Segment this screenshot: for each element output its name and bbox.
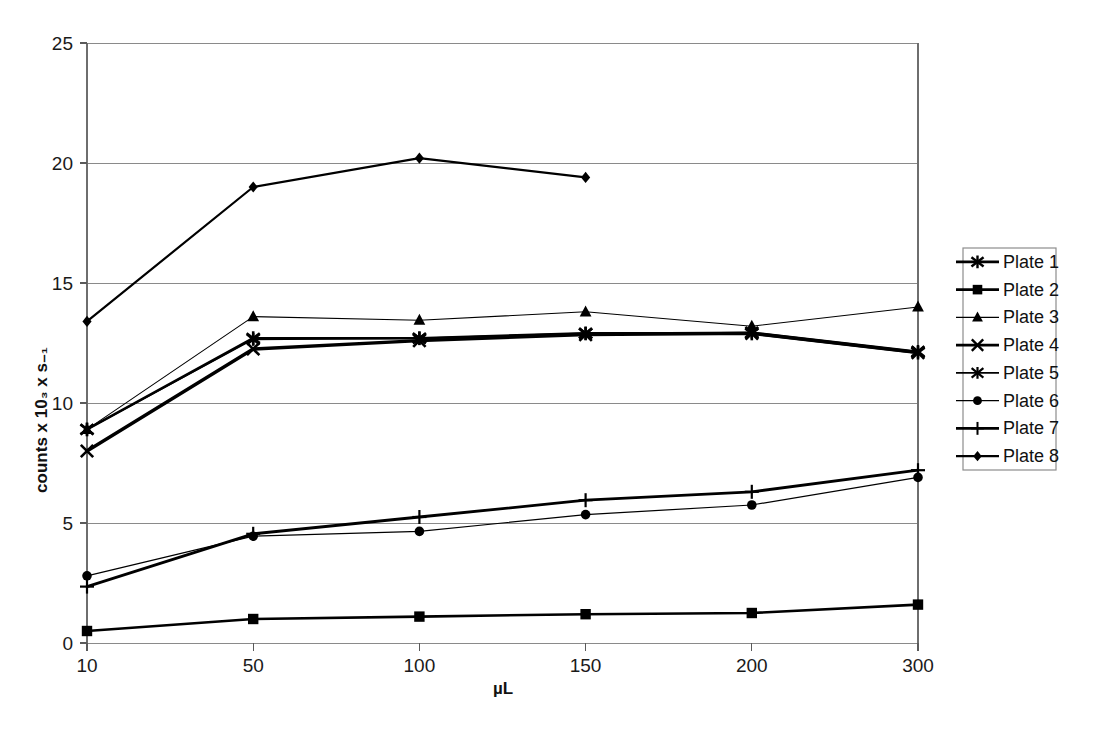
marker-square xyxy=(580,609,590,619)
y-tick-label: 0 xyxy=(62,633,73,654)
x-axis-title: µL xyxy=(493,679,513,698)
y-tick-label: 15 xyxy=(52,273,73,294)
y-axis-title: counts x 10₃ x s₋₁ xyxy=(32,347,51,493)
y-tick-label: 20 xyxy=(52,153,73,174)
marker-square xyxy=(414,611,424,621)
marker-square xyxy=(973,285,983,295)
chart-canvas: 0510152025 1050100150200300 counts x 10₃… xyxy=(0,0,1096,737)
legend-label: Plate 5 xyxy=(1003,363,1059,383)
legend-label: Plate 3 xyxy=(1003,307,1059,327)
legend-label: Plate 8 xyxy=(1003,446,1059,466)
legend-label: Plate 6 xyxy=(1003,391,1059,411)
x-tick-label: 300 xyxy=(902,655,934,676)
y-tick-label: 10 xyxy=(52,393,73,414)
marker-circle xyxy=(581,510,591,520)
marker-circle xyxy=(82,571,92,581)
y-tick-label: 25 xyxy=(52,33,73,54)
line-chart: 0510152025 1050100150200300 counts x 10₃… xyxy=(0,0,1096,737)
x-tick-label: 150 xyxy=(570,655,602,676)
marker-square xyxy=(913,599,923,609)
marker-square xyxy=(248,614,258,624)
x-tick-label: 200 xyxy=(736,655,768,676)
x-tick-label: 50 xyxy=(243,655,264,676)
legend-label: Plate 7 xyxy=(1003,418,1059,438)
marker-circle xyxy=(973,396,982,405)
marker-circle xyxy=(747,500,757,510)
x-tick-label: 10 xyxy=(76,655,97,676)
y-tick-label: 5 xyxy=(62,513,73,534)
marker-square xyxy=(747,608,757,618)
chart-legend[interactable]: Plate 1Plate 2Plate 3Plate 4Plate 5Plate… xyxy=(956,248,1059,470)
legend-label: Plate 1 xyxy=(1003,252,1059,272)
x-tick-label: 100 xyxy=(404,655,436,676)
marker-square xyxy=(82,626,92,636)
marker-circle xyxy=(415,527,425,537)
legend-label: Plate 4 xyxy=(1003,335,1059,355)
legend-label: Plate 2 xyxy=(1003,280,1059,300)
